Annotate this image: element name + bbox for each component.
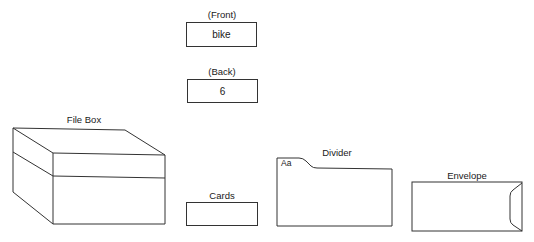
cards-box — [186, 202, 258, 226]
divider-label: Divider — [307, 147, 367, 158]
divider-drawing — [277, 158, 392, 226]
envelope-drawing — [412, 182, 522, 231]
file-box-label: File Box — [54, 114, 114, 125]
divider-tab-text: Aa — [281, 158, 291, 168]
cards-label: Cards — [186, 190, 258, 201]
file-box-drawing — [13, 128, 165, 224]
envelope-label: Envelope — [432, 170, 502, 181]
